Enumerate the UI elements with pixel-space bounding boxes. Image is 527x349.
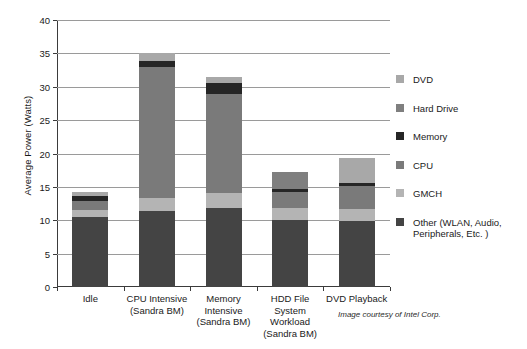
y-axis-title: Average Power (Watts) — [22, 56, 33, 236]
x-tick-mark — [323, 287, 324, 291]
y-tick-mark — [53, 53, 57, 54]
legend-item[interactable]: Memory — [396, 131, 527, 143]
legend-label: Hard Drive — [413, 103, 527, 115]
x-axis-category-label: MemoryIntensive(Sandra BM) — [190, 293, 257, 328]
bar-segment[interactable] — [339, 158, 375, 183]
image-credit: Image courtesy of Intel Corp. — [338, 310, 441, 319]
stacked-bar[interactable] — [272, 172, 308, 287]
bar-segment[interactable] — [272, 172, 308, 189]
y-tick-label: 10 — [39, 215, 50, 226]
category-label-line: System — [257, 305, 324, 317]
category-label-line: Intensive — [190, 305, 257, 317]
bar-segment[interactable] — [139, 211, 175, 287]
bar-segment[interactable] — [72, 196, 108, 201]
legend-swatch-icon — [396, 189, 404, 197]
category-label-line: HDD File — [257, 293, 324, 305]
category-label-line: (Sandra BM) — [257, 328, 324, 340]
bar-segment[interactable] — [272, 220, 308, 287]
legend-label: Other (WLAN, Audio, — [413, 217, 527, 229]
legend-item[interactable]: CPU — [396, 160, 527, 172]
x-axis-category-label: HDD FileSystemWorkload(Sandra BM) — [257, 293, 324, 339]
legend-item[interactable]: Hard Drive — [396, 103, 527, 115]
legend-item[interactable]: GMCH — [396, 188, 527, 200]
bar-segment[interactable] — [206, 193, 242, 208]
plot-area: 0510152025303540 — [57, 20, 390, 287]
x-tick-mark — [57, 287, 58, 291]
y-tick-mark — [53, 20, 57, 21]
bar-segment[interactable] — [206, 83, 242, 94]
bar-segment[interactable] — [339, 221, 375, 287]
power-consumption-chart: Average Power (Watts) 0510152025303540 I… — [0, 0, 527, 349]
bar-segment[interactable] — [206, 77, 242, 83]
bar-segment[interactable] — [72, 201, 108, 210]
category-label-line: (Sandra BM) — [124, 305, 191, 317]
legend-item[interactable]: Other (WLAN, Audio,Peripherals, Etc. ) — [396, 217, 527, 240]
category-label-line: Idle — [57, 293, 124, 305]
x-axis-category-label: DVD Playback — [323, 293, 390, 305]
y-tick-mark — [53, 154, 57, 155]
x-tick-mark — [390, 287, 391, 291]
legend-label-line2: Peripherals, Etc. ) — [413, 228, 527, 240]
category-label-line: Memory — [190, 293, 257, 305]
y-tick-mark — [53, 187, 57, 188]
legend-swatch-icon — [396, 161, 404, 169]
x-axis-category-label: Idle — [57, 293, 124, 305]
y-tick-label: 35 — [39, 48, 50, 59]
bar-segment[interactable] — [72, 217, 108, 287]
x-tick-mark — [124, 287, 125, 291]
legend-swatch-icon — [396, 218, 404, 226]
legend-label: GMCH — [413, 188, 527, 200]
x-axis-category-label: CPU Intensive(Sandra BM) — [124, 293, 191, 316]
y-tick-mark — [53, 87, 57, 88]
stacked-bar[interactable] — [206, 77, 242, 287]
category-label-line: (Sandra BM) — [190, 316, 257, 328]
bar-segment[interactable] — [139, 198, 175, 211]
gridline — [57, 53, 390, 54]
bar-segment[interactable] — [206, 94, 242, 193]
legend-label: CPU — [413, 160, 527, 172]
stacked-bar[interactable] — [339, 158, 375, 287]
legend-label: DVD — [413, 74, 527, 86]
bar-segment[interactable] — [206, 208, 242, 287]
y-tick-label: 5 — [45, 248, 50, 259]
bar-segment[interactable] — [72, 192, 108, 197]
legend-swatch-icon — [396, 104, 404, 112]
category-label-line: DVD Playback — [323, 293, 390, 305]
chart-legend: DVDHard DriveMemoryCPUGMCHOther (WLAN, A… — [396, 74, 527, 256]
x-tick-mark — [190, 287, 191, 291]
category-label-line: CPU Intensive — [124, 293, 191, 305]
y-tick-mark — [53, 220, 57, 221]
bar-segment[interactable] — [139, 61, 175, 67]
bar-segment[interactable] — [272, 208, 308, 220]
y-tick-label: 40 — [39, 15, 50, 26]
y-tick-label: 25 — [39, 115, 50, 126]
stacked-bar[interactable] — [72, 192, 108, 287]
y-tick-label: 0 — [45, 282, 50, 293]
y-tick-label: 30 — [39, 81, 50, 92]
bar-segment[interactable] — [339, 186, 375, 209]
legend-item[interactable]: DVD — [396, 74, 527, 86]
bar-segment[interactable] — [139, 67, 175, 197]
bar-segment[interactable] — [272, 189, 308, 192]
legend-swatch-icon — [396, 75, 404, 83]
y-tick-mark — [53, 120, 57, 121]
y-tick-label: 15 — [39, 181, 50, 192]
category-label-line: Workload — [257, 316, 324, 328]
stacked-bar[interactable] — [139, 53, 175, 287]
bar-segment[interactable] — [72, 210, 108, 217]
legend-label: Memory — [413, 131, 527, 143]
bar-segment[interactable] — [139, 53, 175, 61]
bar-segment[interactable] — [339, 183, 375, 186]
bar-segment[interactable] — [339, 209, 375, 221]
bar-segment[interactable] — [272, 192, 308, 209]
legend-swatch-icon — [396, 132, 404, 140]
x-tick-mark — [257, 287, 258, 291]
gridline — [57, 20, 390, 21]
y-tick-label: 20 — [39, 148, 50, 159]
y-tick-mark — [53, 254, 57, 255]
